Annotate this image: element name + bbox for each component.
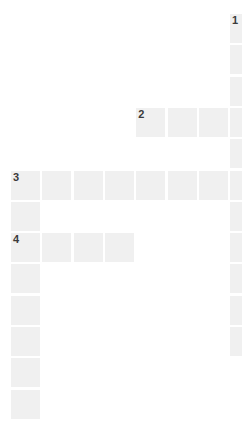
crossword-cell[interactable] bbox=[74, 233, 103, 262]
crossword-cell[interactable] bbox=[199, 171, 228, 200]
cell-number: 2 bbox=[138, 108, 144, 121]
crossword-cell[interactable] bbox=[230, 233, 242, 262]
crossword-cell[interactable] bbox=[230, 202, 242, 231]
crossword-cell[interactable] bbox=[105, 171, 134, 200]
crossword-grid[interactable]: 1234 bbox=[0, 0, 242, 421]
crossword-cell[interactable] bbox=[230, 77, 242, 106]
crossword-cell[interactable] bbox=[105, 233, 134, 262]
crossword-cell[interactable] bbox=[230, 327, 242, 356]
crossword-cell[interactable] bbox=[168, 171, 197, 200]
crossword-cell[interactable] bbox=[11, 327, 40, 356]
crossword-cell[interactable] bbox=[74, 171, 103, 200]
crossword-cell[interactable] bbox=[199, 108, 228, 137]
crossword-cell[interactable] bbox=[11, 264, 40, 293]
crossword-cell[interactable] bbox=[230, 139, 242, 168]
crossword-cell[interactable] bbox=[230, 296, 242, 325]
crossword-cell[interactable] bbox=[230, 264, 242, 293]
crossword-cell[interactable] bbox=[11, 390, 40, 419]
crossword-cell[interactable] bbox=[11, 358, 40, 387]
crossword-cell[interactable]: 1 bbox=[230, 14, 242, 43]
crossword-cell[interactable] bbox=[168, 108, 197, 137]
crossword-cell[interactable] bbox=[11, 296, 40, 325]
crossword-cell[interactable] bbox=[230, 108, 242, 137]
crossword-cell[interactable] bbox=[42, 233, 71, 262]
crossword-cell[interactable] bbox=[42, 171, 71, 200]
crossword-cell[interactable]: 2 bbox=[136, 108, 165, 137]
crossword-cell[interactable] bbox=[11, 202, 40, 231]
cell-number: 3 bbox=[13, 171, 19, 184]
crossword-cell[interactable]: 4 bbox=[11, 233, 40, 262]
crossword-cell[interactable] bbox=[230, 45, 242, 74]
cell-number: 1 bbox=[232, 14, 238, 27]
cell-number: 4 bbox=[13, 233, 19, 246]
crossword-cell[interactable]: 3 bbox=[11, 171, 40, 200]
crossword-cell[interactable] bbox=[230, 171, 242, 200]
crossword-page: 1234 bbox=[0, 0, 242, 421]
crossword-cell[interactable] bbox=[136, 171, 165, 200]
